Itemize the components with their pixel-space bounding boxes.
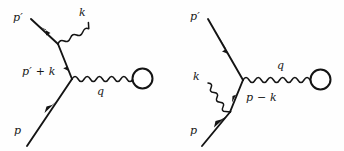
left-boson-q-wave <box>72 76 133 81</box>
right-internal-propagator-arrow <box>232 87 241 103</box>
right-internal-propagator-line <box>230 80 243 112</box>
left-label-incoming-fermion: p <box>14 125 21 136</box>
right-photon-k-wave <box>208 83 230 112</box>
left-photon-k-wave <box>58 22 89 44</box>
left-label-boson-q: q <box>97 86 104 97</box>
right-label-outgoing-fermion: p′ <box>190 11 200 22</box>
right-boson-q-wave <box>243 77 310 82</box>
left-diagram-group <box>27 19 153 146</box>
left-label-outgoing-fermion: p′ <box>13 12 23 23</box>
left-label-photon-k: k <box>79 7 86 18</box>
left-blob-circle <box>133 69 153 89</box>
left-outgoing-fermion-line <box>31 19 58 44</box>
right-label-boson-q: q <box>277 60 284 71</box>
feynman-diagram-figure: p′ k p′ + k q p p′ k p − k q p <box>0 0 344 151</box>
left-label-internal-propagator: p′ + k <box>22 66 56 77</box>
right-label-incoming-fermion: p <box>190 125 197 136</box>
right-label-internal-propagator: p − k <box>246 92 277 103</box>
right-diagram-group <box>202 19 331 146</box>
right-blob-circle <box>311 70 331 90</box>
left-incoming-fermion-line <box>27 79 72 146</box>
right-label-photon-k: k <box>193 71 200 82</box>
